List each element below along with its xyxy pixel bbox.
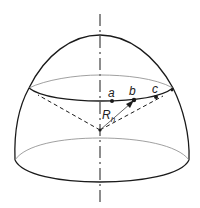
label-radius-main: R [102, 108, 111, 122]
dome-outline [15, 35, 189, 160]
center-point [98, 128, 101, 131]
diagram-svg [0, 0, 200, 208]
label-b: b [129, 85, 136, 97]
base-circle-back [15, 138, 189, 160]
label-radius: Rh [102, 109, 115, 121]
point-b [132, 98, 136, 102]
label-c: c [152, 83, 158, 95]
label-a: a [108, 87, 115, 99]
base-circle-front [15, 160, 189, 182]
point-right-edge [171, 89, 174, 92]
label-radius-sub: h [111, 115, 115, 124]
dome-diagram: a b c Rh [0, 0, 200, 208]
